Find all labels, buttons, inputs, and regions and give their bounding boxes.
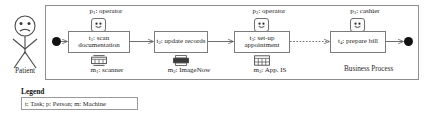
task-4-label: t4: prepare bill bbox=[332, 38, 384, 45]
legend-box: t: Task; p: Person; m: Machine bbox=[21, 97, 138, 110]
task-2-machine-label: m2: ImageNow bbox=[144, 67, 234, 74]
smiley-person-icon bbox=[254, 18, 269, 32]
printer-machine-icon bbox=[173, 55, 189, 66]
server-machine-icon bbox=[254, 55, 270, 66]
task-2-label: t2: update records bbox=[156, 38, 206, 45]
task-3-label: t3: set-up appointment bbox=[236, 35, 288, 50]
task-3-role-label: p2: operator bbox=[224, 8, 314, 15]
stick-figure-person-icon bbox=[6, 14, 44, 72]
legend-text: t: Task; p: Person; m: Machine bbox=[25, 100, 106, 107]
task-box-t2[interactable]: t2: update records bbox=[154, 31, 208, 53]
task-1-label: t1: scan documentation bbox=[70, 35, 128, 50]
end-event-node bbox=[404, 37, 413, 46]
legend-title: Legend bbox=[21, 87, 44, 96]
smiley-person-icon bbox=[350, 18, 365, 32]
task-4-role-label: p3: cashier bbox=[320, 8, 410, 15]
diagram-canvas: Business Process Patient p1: operator bbox=[0, 0, 434, 120]
business-process-frame-label: Business Process bbox=[344, 66, 428, 74]
smiley-person-icon bbox=[91, 18, 106, 32]
task-box-t3[interactable]: t3: set-up appointment bbox=[234, 31, 290, 53]
task-1-role-label: p1: operator bbox=[61, 8, 151, 15]
actor-label: Patient bbox=[4, 68, 46, 76]
task-box-t1[interactable]: t1: scan documentation bbox=[68, 31, 130, 53]
task-3-machine-label: m3: App. IS bbox=[225, 67, 315, 74]
start-event-node bbox=[52, 37, 61, 46]
task-box-t4[interactable]: t4: prepare bill bbox=[330, 31, 386, 53]
task-1-machine-label: m1: scanner bbox=[62, 67, 152, 74]
scanner-machine-icon bbox=[91, 55, 107, 66]
